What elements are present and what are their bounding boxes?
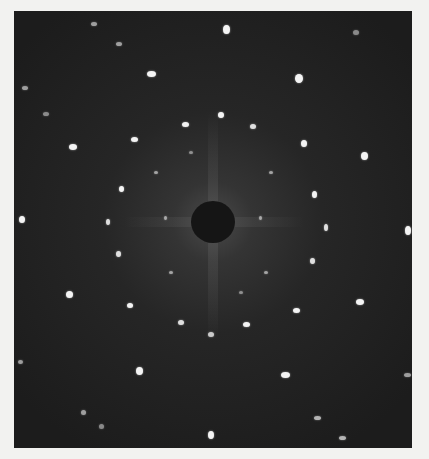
diffraction-spot [314, 416, 321, 420]
diffraction-spot [189, 151, 193, 154]
diffraction-spot [18, 360, 23, 364]
diffraction-spot [164, 216, 167, 220]
diffraction-spot [147, 71, 156, 77]
diffraction-spot [69, 144, 77, 150]
diffraction-spot [239, 291, 243, 294]
diffraction-spot [339, 436, 346, 440]
diffraction-spot [91, 22, 97, 26]
diffraction-spot [404, 373, 411, 377]
diffraction-spot [99, 424, 104, 429]
diffraction-spot [269, 171, 273, 174]
diffraction-spot [106, 219, 110, 225]
beam-stop [191, 201, 235, 243]
diffraction-spot [116, 251, 121, 257]
diffraction-plate [14, 11, 412, 448]
diffraction-spot [22, 86, 28, 90]
diffraction-spot [243, 322, 250, 327]
diffraction-spot [405, 226, 411, 235]
diffraction-spot [264, 271, 268, 274]
diffraction-spot [66, 291, 73, 298]
diffraction-spot [223, 25, 230, 34]
diffraction-spot [19, 216, 25, 223]
diffraction-spot [356, 299, 364, 305]
diffraction-spot [154, 171, 158, 174]
diffraction-spot [293, 308, 300, 313]
diffraction-spot [182, 122, 189, 127]
diffraction-spot [295, 74, 303, 83]
diffraction-spot [178, 320, 184, 325]
diffraction-spot [301, 140, 307, 147]
diffraction-spot [127, 303, 133, 308]
diffraction-spot [361, 152, 368, 160]
diffraction-spot [312, 191, 317, 198]
diffraction-spot [208, 332, 214, 337]
diffraction-spot [259, 216, 262, 220]
diffraction-spot [281, 372, 290, 378]
diffraction-spot [218, 112, 224, 118]
diffraction-spot [310, 258, 315, 264]
diffraction-spot [324, 224, 328, 231]
diffraction-spot [353, 30, 359, 35]
diffraction-spot [131, 137, 138, 142]
diffraction-spot [208, 431, 214, 439]
diffraction-spot [136, 367, 143, 375]
diffraction-spot [250, 124, 256, 129]
diffraction-spot [119, 186, 124, 192]
diffraction-spot [43, 112, 49, 116]
diffraction-spot [116, 42, 122, 46]
diffraction-spot [81, 410, 86, 415]
diffraction-spot [169, 271, 173, 274]
